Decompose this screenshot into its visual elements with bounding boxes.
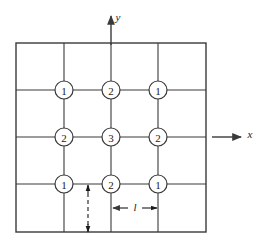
node-label: 1 — [155, 179, 161, 191]
grid-nodes: 1 2 1 2 3 2 — [55, 81, 167, 193]
grid-stencil-figure: 1 2 1 2 3 2 — [0, 0, 262, 248]
grid-node: 2 — [102, 175, 120, 193]
x-axis: x — [212, 128, 253, 140]
grid-node: 1 — [149, 175, 167, 193]
node-label: 2 — [61, 132, 67, 144]
y-axis: y — [111, 11, 121, 45]
node-label: 2 — [108, 85, 114, 97]
node-label: 2 — [108, 179, 114, 191]
grid-node: 1 — [149, 81, 167, 99]
node-label: 2 — [155, 132, 161, 144]
node-label: 1 — [61, 179, 67, 191]
grid-node: 1 — [55, 175, 73, 193]
figure-canvas: 1 2 1 2 3 2 — [0, 0, 262, 248]
y-axis-label: y — [115, 11, 121, 23]
grid-node: 2 — [102, 81, 120, 99]
node-label: 1 — [155, 85, 161, 97]
grid-node: 2 — [55, 128, 73, 146]
node-label: 1 — [61, 85, 67, 97]
grid-node: 1 — [55, 81, 73, 99]
grid-node: 2 — [149, 128, 167, 146]
x-axis-label: x — [247, 128, 253, 140]
dimension-horizontal-label: l — [133, 201, 136, 213]
dimension-horizontal: l — [113, 201, 157, 213]
grid-node: 3 — [102, 128, 120, 146]
node-label: 3 — [108, 132, 114, 144]
